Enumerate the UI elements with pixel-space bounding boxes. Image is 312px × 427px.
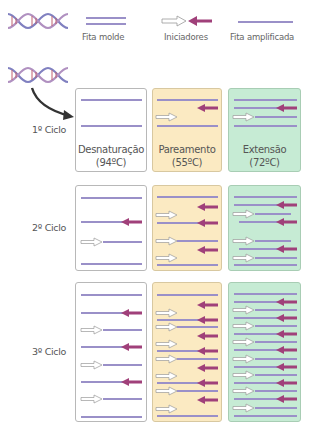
step-name: Pareamento [153,143,221,156]
strands [153,186,223,272]
cycle-3-annealing-box [152,282,222,422]
template-strand-icon [86,16,128,26]
cycle-2-annealing-box [152,185,222,271]
reverse-primer-icon [188,15,214,27]
step-temp: (72ºC) [229,156,300,169]
strands [76,186,148,272]
step-temp: (94ºC) [76,156,146,169]
cycle-3-denaturation-box [75,282,147,422]
cycle-2-extension-box [228,185,301,271]
cycle-3-label: 3º Ciclo [32,346,66,357]
cycle-1-extension-box: Extensão (72ºC) [228,88,301,172]
step-temp: (55ºC) [153,156,221,169]
cycle-2-denaturation-box [75,185,147,271]
cycle-1-annealing-box: Pareamento (55ºC) [152,88,222,172]
strands [76,283,148,423]
strands [153,283,223,423]
dna-helix-icon [6,10,70,32]
legend-template-strand-label: Fita molde [82,32,124,42]
cycle-2-label: 2º Ciclo [32,222,66,233]
strands [229,283,302,423]
dna-helix-icon [6,64,70,86]
curved-arrow-icon [28,86,78,122]
cycle-1-denaturation-box: Desnaturação (94ºC) [75,88,147,172]
amplified-strand-icon [238,20,294,24]
strands [229,186,302,272]
forward-primer-icon [162,15,188,27]
step-name: Extensão [229,143,300,156]
step-name: Desnaturação [76,143,146,156]
legend-amplified-strand-label: Fita amplificada [230,32,294,42]
cycle-3-extension-box [228,282,301,422]
cycle-1-label: 1º Ciclo [32,124,66,135]
legend-primers-label: Iniciadores [164,32,208,42]
